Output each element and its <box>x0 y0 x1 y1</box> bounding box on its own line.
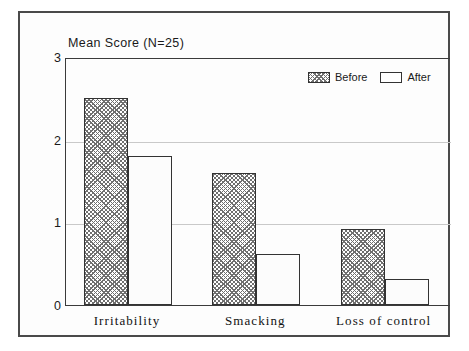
bar-before-0 <box>84 98 128 305</box>
y-tick-label-1: 1 <box>41 217 61 229</box>
bar-after-1 <box>256 254 300 305</box>
y-tick-label-0: 0 <box>41 300 61 312</box>
chart-figure: Mean Score (N=25) Before After 0123 Irri… <box>0 0 469 351</box>
x-axis-labels: IrritabilitySmackingLoss of control <box>65 313 450 337</box>
figure-frame: Mean Score (N=25) Before After 0123 Irri… <box>18 11 450 337</box>
chart-title: Mean Score (N=25) <box>68 36 184 50</box>
y-tick-label-2: 2 <box>41 135 61 147</box>
bar-before-2 <box>341 229 385 305</box>
x-tick-label-2: Loss of control <box>294 313 469 329</box>
bar-after-2 <box>385 279 429 305</box>
bar-after-0 <box>128 156 172 305</box>
y-tick-label-3: 3 <box>41 52 61 64</box>
bar-before-1 <box>212 173 256 305</box>
y-axis-labels: 0123 <box>39 13 61 351</box>
plot-area <box>65 58 450 306</box>
